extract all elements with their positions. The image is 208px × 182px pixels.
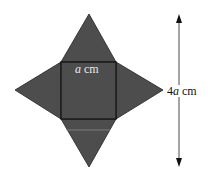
height-label: 4a cm (166, 85, 198, 97)
height-unit: cm (179, 84, 197, 98)
arrow-down-head-icon (176, 158, 182, 167)
right-triangle-face (116, 62, 163, 119)
arrow-up-head-icon (176, 14, 182, 23)
bottom-triangle-face (61, 119, 116, 167)
side-unit: cm (81, 62, 99, 76)
side-length-label: a cm (75, 63, 99, 75)
left-triangle-face (15, 62, 61, 119)
top-triangle-face (61, 14, 116, 62)
